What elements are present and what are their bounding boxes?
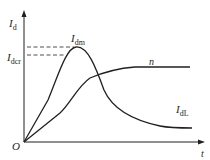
idl-label: IdL (175, 103, 189, 118)
idcr-label: Idcr (6, 51, 21, 66)
speed-current-diagram: Id Idm Idcr n IdL O t (0, 0, 210, 160)
idm-label: Idm (70, 32, 86, 47)
y-axis-arrow-icon (22, 10, 27, 17)
n-label: n (149, 56, 154, 67)
x-axis-label: t (201, 148, 204, 159)
y-axis-label: Id (8, 17, 17, 32)
current-curve (24, 47, 192, 142)
origin-label: O (12, 140, 20, 152)
speed-curve (24, 67, 190, 142)
x-axis-arrow-icon (198, 140, 205, 145)
